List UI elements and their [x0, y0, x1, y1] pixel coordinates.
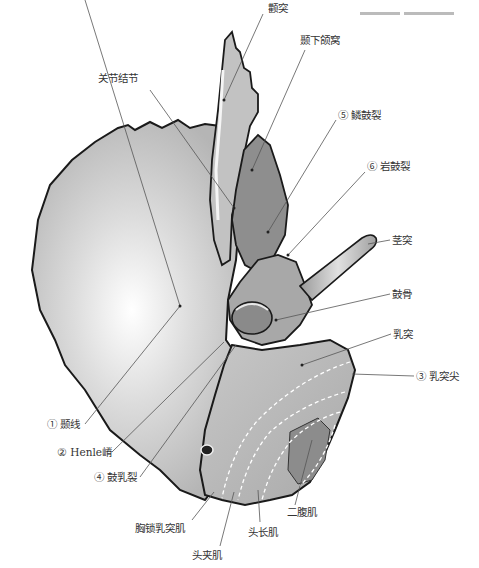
mastoid-foramen	[201, 445, 213, 455]
label-petrotympanic-fissure: ⑥ 岩鼓裂	[367, 160, 410, 172]
external-acoustic-meatus	[232, 302, 272, 334]
label-styloid-process: 茎突	[392, 234, 412, 246]
label-henle-spine: ② Henle嵴	[57, 446, 112, 458]
label-mandibular-fossa: 颞下颌窝	[300, 34, 340, 46]
label-temporal-line: ① 颞线	[47, 418, 80, 430]
label-articular-tubercle: 关节结节	[98, 72, 138, 84]
label-squamotympanic-fissure: ⑤ 鳞鼓裂	[338, 109, 381, 121]
label-mastoid-tip: ③ 乳突尖	[416, 370, 459, 382]
label-tympanomastoid-fissure: ④ 鼓乳裂	[94, 471, 137, 483]
label-digastric-muscle: 二腹肌	[287, 506, 317, 518]
mastoid-process-shape	[200, 340, 355, 505]
label-sternocleidomastoid: 胸锁乳突肌	[135, 522, 185, 534]
styloid-process-shape	[300, 235, 376, 300]
temporal-bone-illustration	[0, 0, 479, 568]
label-longissimus-capitis: 头长肌	[248, 526, 278, 538]
label-mastoid-process: 乳突	[393, 328, 413, 340]
label-tympanic-bone: 鼓骨	[392, 288, 412, 300]
label-zygomatic-process: 颧突	[268, 2, 288, 14]
label-splenius-capitis: 头夹肌	[192, 549, 222, 561]
